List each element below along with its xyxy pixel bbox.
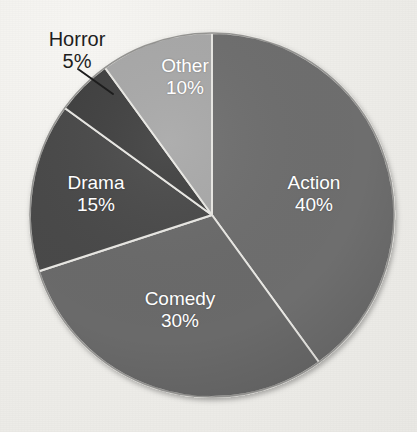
slice-label-horror-name: Horror [22, 28, 132, 50]
slice-label-horror: Horror 5% [22, 28, 132, 73]
slice-label-horror-value: 5% [22, 50, 132, 72]
page-background: Action 40% Comedy 30% Drama 15% Other 10… [0, 0, 417, 432]
pie-chart: Action 40% Comedy 30% Drama 15% Other 10… [0, 0, 417, 432]
pie-shading-overlay [30, 33, 394, 397]
